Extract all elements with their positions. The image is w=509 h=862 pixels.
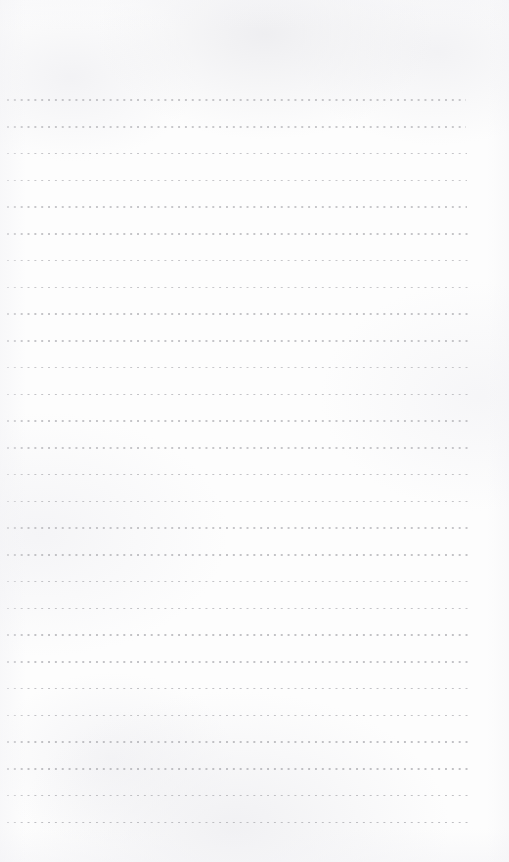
notebook-page	[0, 0, 509, 862]
dotted-guide-row	[7, 287, 468, 289]
dotted-guide-row	[7, 153, 467, 155]
dotted-guide-row	[7, 795, 472, 797]
dotted-guide-row	[7, 474, 470, 476]
dotted-guide-row	[7, 447, 469, 449]
dotted-guide-row	[7, 822, 472, 824]
dotted-guide-row	[7, 394, 469, 396]
dotted-guide-row	[7, 688, 471, 690]
dotted-guide-row	[7, 420, 469, 422]
dotted-guide-row	[7, 501, 470, 503]
dotted-guide-row	[7, 554, 470, 556]
dotted-guide-row	[7, 768, 472, 770]
dotted-guide-row	[7, 233, 468, 235]
dotted-rule-area	[0, 0, 509, 862]
dotted-guide-row	[7, 608, 471, 610]
dotted-guide-row	[7, 527, 470, 529]
dotted-guide-row	[7, 634, 471, 636]
dotted-guide-row	[7, 313, 468, 315]
dotted-guide-row	[7, 367, 469, 369]
dotted-guide-row	[7, 581, 470, 583]
dotted-guide-row	[7, 126, 466, 128]
dotted-guide-row	[7, 206, 467, 208]
dotted-guide-row	[7, 741, 472, 743]
dotted-guide-row	[7, 180, 467, 182]
dotted-guide-row	[7, 260, 468, 262]
dotted-guide-row	[7, 715, 471, 717]
dotted-guide-row	[7, 661, 471, 663]
dotted-guide-row	[7, 99, 466, 101]
dotted-guide-row	[7, 340, 469, 342]
